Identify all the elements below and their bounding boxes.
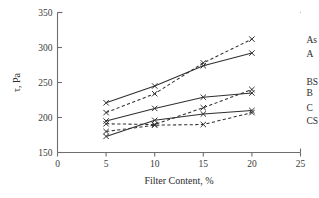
y-tick-label: 200 xyxy=(38,113,53,123)
y-tick-label: 150 xyxy=(38,148,53,158)
x-tick-label: 15 xyxy=(199,159,209,169)
series-label-c: C xyxy=(307,103,313,113)
y-tick-label: 250 xyxy=(38,78,53,88)
x-axis-title: Filter Content, % xyxy=(144,175,213,186)
series-label-bs: BS xyxy=(307,77,319,87)
y-tick-label: 300 xyxy=(38,43,53,53)
x-tick-label: 20 xyxy=(247,159,257,169)
series-label-cs: CS xyxy=(307,116,319,126)
x-tick-label: 0 xyxy=(55,159,60,169)
line-chart: 0510152025 150200250300350 AsABSBCCS Fil… xyxy=(0,0,318,198)
y-axis-title: τ, Pa xyxy=(11,72,22,92)
x-tick-label: 10 xyxy=(150,159,160,169)
x-tick-label: 5 xyxy=(104,159,109,169)
chart-figure: 0510152025 150200250300350 AsABSBCCS Fil… xyxy=(0,0,318,198)
series-label-a: A xyxy=(307,49,314,59)
series-label-b: B xyxy=(307,88,313,98)
series-label-as: As xyxy=(307,35,318,45)
y-tick-label: 350 xyxy=(38,8,53,18)
x-tick-label: 25 xyxy=(296,159,306,169)
